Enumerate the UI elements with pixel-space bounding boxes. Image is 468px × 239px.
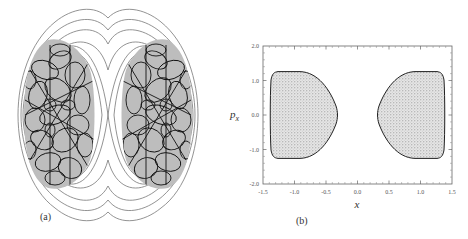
y-tick-label: 1.0	[252, 78, 260, 84]
figure: (a) 2.0 1.0 0.0 -1.0 -2.0 -1.5 -1.0	[0, 0, 468, 239]
x-tick-label: -1.0	[290, 189, 300, 195]
x-tick-label: 1.0	[417, 189, 425, 195]
chaotic-orbit-left	[20, 36, 100, 196]
x-tick-label: 0.5	[385, 189, 393, 195]
right-island	[378, 72, 445, 159]
x-tick-label: -0.5	[321, 189, 331, 195]
x-axis-label: x	[354, 198, 360, 210]
left-island	[270, 72, 337, 159]
panel-a-label: (a)	[40, 211, 51, 223]
y-tick-label: 0.0	[252, 112, 260, 118]
x-tick-label: -1.5	[258, 189, 268, 195]
chaotic-orbit-right	[116, 36, 196, 196]
y-axis-label-subscript: x	[235, 114, 240, 123]
y-tick-label: -2.0	[250, 181, 260, 187]
y-tick-label: -1.0	[250, 147, 260, 153]
y-tick-label: 2.0	[252, 43, 260, 49]
x-tick-label: 1.5	[448, 189, 456, 195]
panel-b-label: (b)	[296, 215, 308, 227]
panel-a: (a)	[18, 9, 198, 223]
x-tick-label: 0.0	[354, 189, 362, 195]
panel-b: 2.0 1.0 0.0 -1.0 -2.0 -1.5 -1.0 -0.5 0.0…	[229, 43, 456, 227]
y-axis-label: px	[229, 108, 240, 123]
